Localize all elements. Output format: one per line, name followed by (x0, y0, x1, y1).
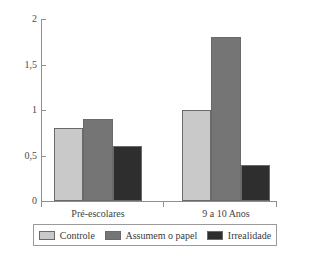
x-axis-category-label: Pré-escolares (43, 208, 153, 219)
legend-item: Assumem o papel (105, 230, 198, 241)
x-axis-tick (276, 202, 277, 207)
bar (241, 165, 270, 201)
x-axis-category-label: 9 a 10 Anos (171, 208, 281, 219)
y-axis-tick-label: 0 (32, 196, 37, 206)
plot-area (41, 19, 276, 202)
x-axis-tick (163, 202, 164, 207)
y-axis-tick-label: 1,5 (25, 60, 38, 70)
x-axis-tick (41, 202, 42, 207)
bar (211, 37, 240, 201)
y-axis-tick-label: 0,5 (25, 151, 38, 161)
legend-swatch-icon (105, 231, 121, 240)
bar-chart: 00,511,52 Pré-escolares9 a 10 Anos Contr… (0, 0, 309, 258)
legend-item: Controle (39, 230, 95, 241)
legend-label: Controle (60, 230, 95, 241)
legend-item: Irrealidade (207, 230, 271, 241)
bar (83, 119, 112, 201)
legend-swatch-icon (207, 231, 223, 240)
bar (182, 110, 211, 201)
legend-swatch-icon (39, 231, 55, 240)
y-axis-tick-label: 2 (32, 14, 37, 24)
y-axis-tick-label: 1 (32, 105, 37, 115)
legend-label: Irrealidade (228, 230, 271, 241)
bar (113, 146, 142, 201)
legend-label: Assumem o papel (126, 230, 198, 241)
chart-legend: ControleAssumem o papelIrrealidade (33, 224, 277, 246)
bar (54, 128, 83, 201)
